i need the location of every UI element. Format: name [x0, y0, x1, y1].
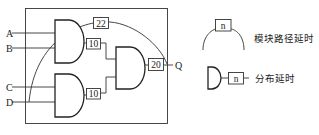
input-label-a: A: [6, 28, 14, 39]
and-gate-1: [55, 20, 84, 63]
legend-dist-label: 分布延时: [255, 73, 295, 84]
legend-gate: [208, 67, 221, 89]
delay-value-gate2: 10: [89, 89, 99, 99]
delay-value-gate1: 10: [89, 39, 99, 49]
and-gate-3: [116, 47, 145, 89]
delay-diagram: 22 10 10 20 A B C D Q n 模块路径延时 n 分布延时: [0, 0, 319, 135]
legend-path-label: 模块路径延时: [254, 33, 314, 44]
wire-g1-g3: [100, 43, 116, 59]
legend-path-arc: [203, 29, 244, 50]
legend-path-box-label: n: [221, 21, 226, 31]
delay-value-gate3: 20: [151, 60, 161, 70]
input-label-d: D: [6, 97, 13, 108]
output-label-q: Q: [175, 60, 183, 71]
input-label-b: B: [6, 43, 13, 54]
and-gate-2: [55, 74, 84, 117]
input-label-c: C: [6, 82, 13, 93]
legend-dist-box-label: n: [234, 74, 239, 84]
wire-g2-g3: [100, 77, 116, 93]
delay-value-module-path: 22: [96, 19, 106, 29]
